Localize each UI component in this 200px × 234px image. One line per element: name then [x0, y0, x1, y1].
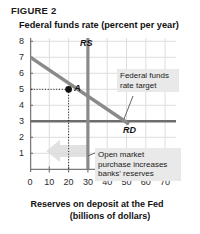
callout-omo-line1: Open market — [98, 150, 144, 159]
y-tick-1: 1 — [10, 149, 24, 158]
callout-omo-line3: banks' reserves — [98, 169, 154, 178]
x-axis-title-line1: Reserves on deposit at the Fed — [0, 199, 194, 211]
reserves-shift-arrow — [46, 140, 88, 162]
figure-number-label: FIGURE 2 — [11, 5, 56, 16]
y-tick-7: 7 — [10, 53, 24, 62]
callout-target-line1: Federal funds — [120, 71, 169, 80]
x-axis-title: Reserves on deposit at the Fed (billions… — [0, 199, 194, 222]
y-tick-4: 4 — [10, 101, 24, 110]
y-tick-6: 6 — [10, 69, 24, 78]
point-a-label: A — [74, 82, 81, 93]
y-tick-3: 3 — [10, 117, 24, 126]
y-tick-5: 5 — [10, 85, 24, 94]
open-market-purchase-callout: Open market purchase increases banks' re… — [95, 148, 181, 181]
figure-container: FIGURE 2 Federal funds rate (percent per… — [0, 0, 200, 234]
point-a-marker — [65, 86, 72, 93]
reserve-demand-curve-label: RD — [123, 125, 136, 135]
callout-target-line2: rate target — [120, 81, 156, 90]
y-axis-title: Federal funds rate (percent per year) — [19, 20, 179, 30]
y-tick-2: 2 — [10, 133, 24, 142]
x-axis-title-line2: (billions of dollars) — [0, 211, 194, 223]
x-tick-0: 0 — [21, 178, 39, 187]
x-tick-10: 10 — [40, 178, 58, 187]
x-tick-20: 20 — [60, 178, 78, 187]
federal-funds-rate-target-callout: Federal funds rate target — [117, 69, 179, 92]
y-tick-8: 8 — [10, 37, 24, 46]
callout-omo-line2: purchase increases — [98, 160, 167, 169]
reserve-supply-curve-label: RS — [80, 38, 93, 48]
